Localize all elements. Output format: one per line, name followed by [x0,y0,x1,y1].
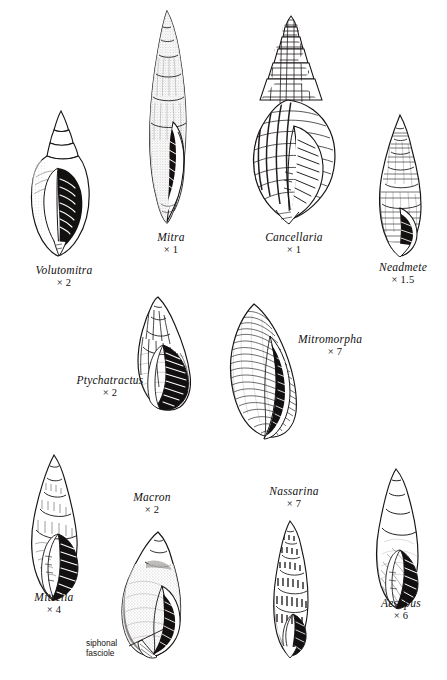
caption-macron: Macron × 2 [104,490,200,517]
genus-label: Ptychatractus [50,373,170,387]
nassarina-illustration [250,518,338,658]
specimen-cancellaria: Cancellaria × 1 [236,14,354,269]
shell-plate: Volutomitra × 2 [0,0,447,680]
magnification-label: × 4 [4,604,104,617]
specimen-neadmete: Neadmete × 1.5 [360,112,444,297]
annotation-line-1: siphonal [86,638,117,648]
genus-label: Macron [104,490,200,504]
magnification-label: × 1 [119,244,223,257]
magnification-label: × 1 [232,244,356,257]
mitrella-illustration [12,452,108,602]
genus-label: Nassarina [246,484,342,498]
magnification-label: × 7 [298,346,372,359]
leader-line-icon [128,626,170,652]
caption-mitrella: Mitrella × 4 [4,590,104,617]
caption-neadmete: Neadmete × 1.5 [358,260,447,287]
genus-label: Mitra [119,230,223,244]
caption-mitromorpha: Mitromorpha × 7 [298,332,390,359]
genus-label: Volutomitra [8,263,120,277]
specimen-volutomitra: Volutomitra × 2 [14,105,114,295]
cancellaria-illustration [236,14,354,226]
genus-label: Cancellaria [232,230,356,244]
magnification-label: × 7 [246,498,342,511]
specimen-nassarina: Nassarina × 7 [250,518,338,668]
genus-label: Mitrella [4,590,104,604]
magnification-label: × 2 [8,277,120,290]
magnification-label: × 2 [50,387,170,400]
mitromorpha-illustration [208,300,338,440]
caption-cancellaria: Cancellaria × 1 [232,230,356,257]
caption-nassarina: Nassarina × 7 [246,484,342,511]
genus-label: Neadmete [358,260,447,274]
magnification-label: × 1.5 [358,274,447,287]
aesopus-illustration [356,466,446,611]
specimen-mitra: Mitra × 1 [126,8,216,268]
genus-label: Mitromorpha [298,332,390,346]
annotation-line-2: fasciole [86,648,117,658]
specimen-aesopus: Aesopus × 6 [356,466,446,646]
specimen-macron: Macron × 2 [104,528,210,678]
neadmete-illustration [360,112,444,257]
annotation-siphonal-fasciole: siphonal fasciole [86,638,117,658]
specimen-mitrella: Mitrella × 4 [12,452,108,632]
specimen-mitromorpha: Mitromorpha × 7 [208,300,338,440]
caption-ptychatractus: Ptychatractus × 2 [50,373,170,400]
genus-label: Aesopus [355,596,447,610]
mitra-illustration [126,8,216,228]
caption-volutomitra: Volutomitra × 2 [8,263,120,290]
magnification-label: × 2 [104,504,200,517]
caption-mitra: Mitra × 1 [119,230,223,257]
caption-aesopus: Aesopus × 6 [355,596,447,623]
volutomitra-illustration [14,105,114,260]
magnification-label: × 6 [355,610,447,623]
